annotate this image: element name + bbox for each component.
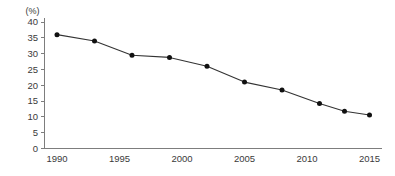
y-axis-tick-label: 30	[27, 48, 38, 59]
data-point-marker	[167, 55, 172, 60]
data-point-marker	[242, 80, 247, 85]
x-axis-tick-label: 2010	[296, 153, 317, 164]
y-axis-tick-label: 15	[27, 95, 38, 106]
y-axis-tick-label: 10	[27, 111, 38, 122]
x-axis: 199019952000200520102015	[45, 149, 383, 164]
line-chart: 0510152025303540 19901995200020052010201…	[0, 0, 395, 176]
x-axis-tick-label: 2000	[171, 153, 192, 164]
data-point-marker	[317, 101, 322, 106]
data-point-marker	[280, 87, 285, 92]
y-axis: 0510152025303540	[27, 16, 44, 154]
data-point-marker	[205, 64, 210, 69]
series-line-path	[57, 35, 370, 115]
x-axis-tick-label: 2015	[359, 153, 380, 164]
y-axis-tick-label: 0	[33, 143, 38, 154]
y-axis-tick-label: 5	[33, 127, 38, 138]
y-axis-tick-label: 20	[27, 80, 38, 91]
chart-canvas: 0510152025303540 19901995200020052010201…	[0, 0, 395, 176]
y-axis-tick-label: 35	[27, 32, 38, 43]
data-point-marker	[342, 109, 347, 114]
y-axis-unit-label: (%)	[26, 6, 40, 16]
y-axis-tick-label: 25	[27, 64, 38, 75]
y-axis-tick-label: 40	[27, 16, 38, 27]
x-axis-tick-label: 2005	[234, 153, 255, 164]
data-point-marker	[367, 112, 372, 117]
data-series	[55, 32, 373, 117]
data-point-marker	[55, 32, 60, 37]
x-axis-tick-label: 1990	[46, 153, 67, 164]
x-axis-tick-label: 1995	[109, 153, 130, 164]
data-point-marker	[92, 38, 97, 43]
data-point-marker	[130, 53, 135, 58]
